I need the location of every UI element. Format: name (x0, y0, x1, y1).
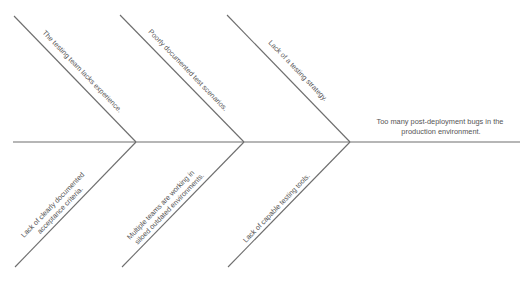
effect-label: Too many post-deployment bugs in the pro… (376, 117, 505, 136)
cause-label-top-2: Poorly documented test scenarios. (147, 27, 230, 113)
cause-label-top-3: Lack of a testing strategy. (267, 38, 330, 103)
cause-label-bottom-3: Lack of capable testing tools. (241, 171, 312, 244)
cause-label-top-1: The testing team lacks experience. (41, 28, 125, 114)
cause-label-bottom-1: Lack of clearly documented acceptance cr… (19, 169, 94, 246)
fishbone-diagram: The testing team lacks experience. Poorl… (0, 0, 530, 281)
cause-label-bottom-2: Multiple teams are working in siloed out… (125, 165, 206, 248)
top-bone-3 (227, 15, 350, 142)
bottom-bone-1 (15, 142, 136, 267)
bottom-bone-2 (122, 142, 244, 267)
top-bone-1 (14, 16, 136, 142)
bottom-bone-3 (228, 142, 350, 267)
top-bone-2 (120, 15, 244, 142)
